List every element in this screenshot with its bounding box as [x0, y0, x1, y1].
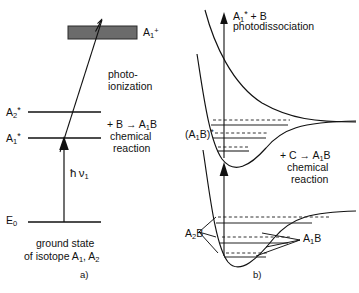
photodissociation-label: photodissociation — [233, 21, 314, 33]
excited-state-label: (A1B)* — [185, 127, 214, 143]
ionization-continuum-band — [68, 26, 137, 39]
photoionization-label-line1: photo- — [108, 69, 138, 81]
panel-a-reaction-line2: chemical — [110, 131, 151, 143]
panel-a-caption: a) — [80, 269, 88, 281]
ground-state-caption-line2: of isotope A1, A2 — [24, 251, 99, 265]
ion-species-text: A1+ — [143, 26, 159, 38]
panel-b-caption: b) — [253, 269, 261, 281]
level-label-a1-star: A1* — [6, 131, 21, 147]
a1b-species-label: A1B — [303, 233, 321, 247]
ground-state-caption-line1: ground state — [36, 238, 94, 250]
panel-b-reaction-line2: chemical — [287, 162, 328, 174]
panel-a-reaction-line3: reaction — [113, 143, 150, 155]
a2b-species-label: A2B — [185, 228, 203, 242]
level-label-e0: E0 — [6, 215, 17, 229]
ion-species-label: A1+ — [143, 25, 159, 41]
photoionization-label-line2: ionization — [108, 81, 152, 93]
panel-b-reaction-line3: reaction — [291, 174, 328, 186]
level-label-a2-star: A2* — [6, 105, 21, 121]
photon-energy-label: ħ ν1 — [70, 168, 89, 182]
